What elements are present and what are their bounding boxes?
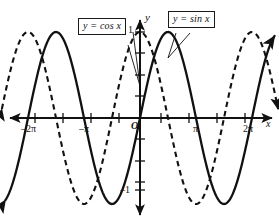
- callout-cos-label: y = cos x: [78, 18, 126, 35]
- leader-line-sin: [168, 33, 190, 58]
- x-tick-label-neg-pi: –π: [79, 124, 89, 134]
- x-tick-label-neg-2pi: –2π: [21, 124, 36, 134]
- leader-line-cos: [128, 32, 140, 86]
- x-tick-label-pi: π: [193, 124, 198, 134]
- plot-canvas: [0, 0, 279, 223]
- y-axis-label: y: [145, 12, 150, 23]
- origin-label: O: [131, 121, 138, 131]
- x-axis-label: x: [266, 119, 270, 129]
- callout-sin-label: y = sin x: [168, 11, 215, 28]
- trig-graph-figure: y = cos x y = sin x y x O 1 –1 –2π –π π …: [0, 0, 279, 223]
- x-tick-label-2pi: 2π: [243, 124, 253, 134]
- y-tick-label-neg-1: –1: [120, 185, 130, 195]
- y-tick-label-1: 1: [128, 25, 133, 35]
